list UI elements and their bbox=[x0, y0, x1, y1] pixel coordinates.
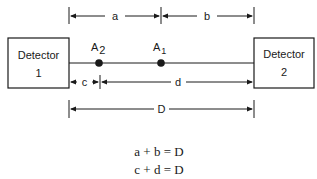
point-a1-label: A1 bbox=[153, 41, 166, 56]
detector-2-label: Detector bbox=[263, 48, 305, 60]
equation-2: c + d = D bbox=[134, 162, 183, 177]
detector-1: Detector 1 bbox=[8, 38, 69, 88]
dimension-D: D bbox=[69, 100, 254, 118]
dimension-D-label: D bbox=[158, 103, 166, 115]
dimension-c-label: c bbox=[82, 76, 88, 88]
dimension-a-label: a bbox=[112, 10, 119, 22]
detector-2-number: 2 bbox=[281, 66, 287, 78]
point-a2-label: A2 bbox=[91, 41, 105, 56]
point-a2-dot bbox=[95, 59, 103, 67]
dimension-c-d: c d bbox=[71, 75, 252, 89]
detector-1-label: Detector bbox=[18, 49, 60, 61]
dimension-b-label: b bbox=[204, 10, 210, 22]
dimension-a-b: a b bbox=[69, 7, 254, 24]
point-a1-dot bbox=[157, 59, 165, 67]
detector-diagram: Detector 1 Detector 2 A2 A1 a b c d bbox=[0, 0, 317, 179]
equation-1: a + b = D bbox=[134, 144, 183, 159]
detector-1-number: 1 bbox=[35, 67, 41, 79]
dimension-d-label: d bbox=[175, 76, 181, 88]
detector-2: Detector 2 bbox=[254, 38, 314, 88]
